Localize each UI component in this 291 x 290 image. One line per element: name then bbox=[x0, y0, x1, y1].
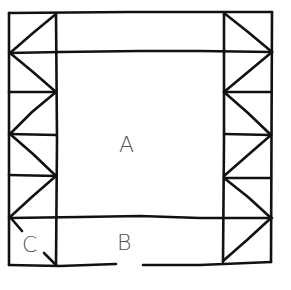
region-label-c: C bbox=[22, 232, 37, 257]
bottom-wall-right bbox=[143, 262, 271, 265]
truss-plan-diagram: A B C bbox=[0, 0, 291, 290]
upper-beam bbox=[9, 51, 272, 53]
region-label-a: A bbox=[119, 132, 134, 157]
lower-beam bbox=[9, 216, 272, 218]
bottom-wall-left bbox=[9, 264, 116, 266]
region-label-b: B bbox=[117, 230, 131, 255]
right-inner-post bbox=[223, 12, 224, 262]
